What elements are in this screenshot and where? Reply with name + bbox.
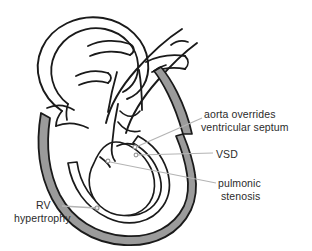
vessel-crossing-upper-lower (90, 52, 130, 56)
vessel-crossing-upper (88, 41, 130, 46)
label-rv-hypertrophy-line1: RV (36, 199, 51, 212)
diagram-canvas: aorta overrides ventricular septum VSD p… (0, 0, 312, 251)
leader-dot-aorta-overrides (133, 145, 137, 149)
right-pulmonary-artery-cap (185, 56, 188, 69)
leader-dot-vsd (134, 153, 138, 157)
aortic-arch-inner-curve (51, 28, 138, 104)
aorta-base-tail (56, 124, 88, 128)
vessel-crossing-mid-cap (108, 73, 111, 83)
pulmonary-branch-stub (171, 41, 188, 45)
leader-dot-pulmonic-stenosis (106, 159, 110, 163)
aortic-arch-outer-curve (38, 17, 149, 111)
leader-dot-rv-hypertrophy (95, 206, 99, 210)
vessel-crossing-mid-lower (79, 81, 108, 85)
label-aorta-overrides-line1: aorta overrides (204, 108, 276, 121)
vessel-crossing-mid (76, 71, 108, 76)
label-pulmonic-stenosis-line1: pulmonic (218, 177, 261, 190)
label-vsd: VSD (216, 148, 238, 161)
stenotic-rv-outflow-tract (154, 67, 192, 134)
label-rv-hypertrophy-line2: hypertrophy (14, 212, 71, 225)
label-aorta-overrides-line2: ventricular septum (201, 121, 289, 134)
overriding-aorta-group (108, 70, 142, 132)
pulmonic-stenosis-group (154, 65, 192, 134)
left-ventricle-group (89, 142, 154, 216)
great-vessel-crossings-group (47, 41, 134, 110)
left-ventricle-cavity (89, 142, 154, 216)
aortic-valve-cusps (120, 111, 140, 116)
label-pulmonic-stenosis-line2: stenosis (221, 190, 260, 203)
aortic-arch-group (38, 17, 149, 128)
